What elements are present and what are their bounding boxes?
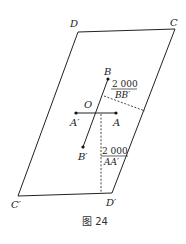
point-b-prime: [81, 145, 84, 148]
label-b: B: [103, 66, 111, 77]
label-d-prime: D′: [105, 197, 117, 208]
point-a: [114, 111, 117, 114]
fraction-aa-denominator: AA′: [103, 157, 119, 167]
diagram-canvas: D C C′ D′ B B′ A A′ O 2 000 BB′ 2 000 AA…: [0, 0, 186, 244]
label-c-prime: C′: [11, 199, 22, 210]
point-b: [106, 77, 109, 80]
label-a-prime: A′: [69, 117, 80, 128]
point-a-prime: [74, 111, 77, 114]
label-b-prime: B′: [77, 151, 88, 162]
figure-caption: 图 24: [82, 216, 108, 227]
label-a: A: [112, 117, 120, 128]
label-d: D: [69, 18, 78, 29]
label-o: O: [84, 99, 92, 110]
fraction-aa-numerator: 2 000: [102, 146, 128, 156]
label-c: C: [170, 17, 178, 28]
fraction-bb-numerator: 2 000: [112, 79, 138, 89]
fraction-bb-denominator: BB′: [114, 90, 130, 100]
